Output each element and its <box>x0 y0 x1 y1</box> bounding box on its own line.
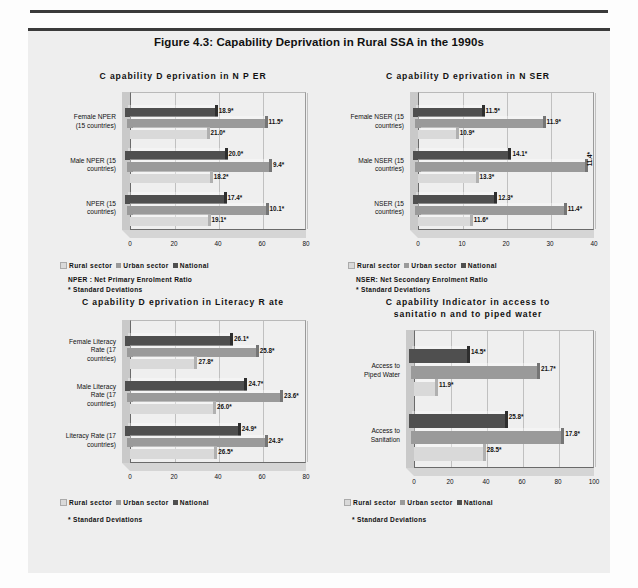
bar-label-sanitation-1-national: 25.8* <box>509 413 524 420</box>
x-tick-label: 40 <box>482 478 489 485</box>
legend-label-rural: Rural sector <box>353 499 396 506</box>
chart-title-nper: C apability D eprivation in N P ER <box>38 70 328 82</box>
chart-legend-sanitation: Rural sectorUrban sectorNational <box>344 499 493 506</box>
bar-literacy-2-rural <box>130 449 215 458</box>
y-category-label-nper-1: Male NPER (15 countries) <box>38 157 116 174</box>
legend-item-national: National <box>461 262 497 269</box>
x-tick-label: 20 <box>502 240 509 247</box>
bar-label-nper-0-rural: 21.0* <box>211 129 226 136</box>
chart-panel-literacy: C apability D eprivation in Literacy R a… <box>38 296 328 526</box>
legend-item-rural: Rural sector <box>348 262 400 269</box>
chart-note-sanitation: * Standard Deviations <box>352 515 426 525</box>
chart-legend-nser: Rural sectorUrban sectorNational <box>348 262 497 269</box>
chart-title-literacy: C apability D eprivation in Literacy R a… <box>38 296 328 308</box>
x-tick-label: 80 <box>302 240 309 247</box>
bar-label-nser-2-rural: 11.6* <box>474 216 488 223</box>
x-tick-label: 60 <box>518 478 525 485</box>
bar-label-literacy-2-rural: 26.5* <box>218 448 233 455</box>
gridline <box>559 331 560 467</box>
x-tick-label: 80 <box>554 478 561 485</box>
x-tick-label: 20 <box>446 478 453 485</box>
y-category-label-literacy-1: Male Literacy Rate (17 countries) <box>38 383 116 409</box>
legend-label-national: National <box>180 499 209 506</box>
gridline <box>523 331 524 467</box>
y-category-label-nser-2: NSER (15 countries) <box>326 200 404 217</box>
bar-label-nser-2-urban: 11.4* <box>568 205 582 212</box>
legend-item-rural: Rural sector <box>60 262 112 269</box>
figure-container: Figure 4.3: Capability Deprivation in Ru… <box>28 28 610 573</box>
y-category-label-sanitation-0: Access to Piped Water <box>326 362 400 379</box>
bar-label-literacy-2-urban: 24.3* <box>269 437 284 444</box>
bar-sanitation-1-urban <box>411 431 561 445</box>
figure-title-rule <box>28 28 610 31</box>
bar-label-sanitation-1-rural: 28.5* <box>487 446 502 453</box>
x-tick-label: 60 <box>258 240 265 247</box>
plot-floor <box>122 463 306 471</box>
bar-nser-2-rural <box>418 217 470 226</box>
y-category-label-nser-1: Male NSER (15 countries) <box>326 157 404 174</box>
y-category-label-nper-0: Female NPER (15 countries) <box>38 113 116 130</box>
bar-label-nser-1-national: 14.1* <box>512 150 527 157</box>
bar-label-literacy-1-national: 24.7* <box>248 380 263 387</box>
chart-panel-nper: C apability D eprivation in N P ER020406… <box>38 70 328 285</box>
bar-label-sanitation-0-national: 14.5* <box>471 348 486 355</box>
legend-label-national: National <box>464 499 493 506</box>
legend-swatch-national <box>173 500 178 505</box>
bar-label-literacy-2-national: 24.9* <box>242 425 257 432</box>
bar-label-nper-1-national: 20.0* <box>229 150 244 157</box>
legend-swatch-national <box>461 263 466 268</box>
x-tick-label: 40 <box>214 240 221 247</box>
legend-item-urban: Urban sector <box>116 262 168 269</box>
bar-label-nser-0-urban: 11.9* <box>547 118 561 125</box>
bar-label-literacy-0-rural: 27.8* <box>198 358 213 365</box>
x-tick-label: 40 <box>214 473 221 480</box>
legend-label-urban: Urban sector <box>411 262 456 269</box>
bar-label-nper-2-national: 17.4* <box>228 194 243 201</box>
bar-label-nper-1-urban: 9.4* <box>273 161 284 168</box>
bar-label-nser-0-national: 11.5* <box>486 107 500 114</box>
legend-item-urban: Urban sector <box>400 499 452 506</box>
legend-swatch-rural <box>60 262 67 269</box>
legend-item-urban: Urban sector <box>116 499 168 506</box>
x-tick-label: 0 <box>416 240 420 247</box>
bar-label-nper-2-rural: 19.1* <box>212 216 227 223</box>
bar-literacy-0-rural <box>130 359 195 368</box>
legend-swatch-rural <box>60 499 67 506</box>
y-category-label-nper-2: NPER (15 countries) <box>38 200 116 217</box>
bar-label-literacy-1-urban: 23.6* <box>284 392 299 399</box>
bar-label-sanitation-1-urban: 17.8* <box>565 430 580 437</box>
x-tick-label: 40 <box>590 240 597 247</box>
legend-swatch-urban <box>116 263 121 268</box>
bar-label-literacy-0-urban: 25.8* <box>260 347 275 354</box>
chart-title-nser: C apability D eprivation in N SER <box>326 70 610 82</box>
legend-swatch-urban <box>404 263 409 268</box>
legend-swatch-national <box>457 500 462 505</box>
legend-label-national: National <box>180 262 209 269</box>
chart-title-sanitation: C apability Indicator in access tosanita… <box>326 296 610 320</box>
legend-item-rural: Rural sector <box>60 499 112 506</box>
bar-sanitation-0-urban <box>411 366 537 380</box>
chart-legend-nper: Rural sectorUrban sectorNational <box>60 262 209 269</box>
legend-label-rural: Rural sector <box>69 499 112 506</box>
x-tick-label: 10 <box>458 240 465 247</box>
legend-item-national: National <box>457 499 493 506</box>
figure-title: Figure 4.3: Capability Deprivation in Ru… <box>28 36 610 48</box>
legend-item-national: National <box>173 499 209 506</box>
bar-label-nper-2-urban: 10.1* <box>270 205 285 212</box>
legend-swatch-national <box>173 263 178 268</box>
legend-item-rural: Rural sector <box>344 499 396 506</box>
chart-panel-nser: C apability D eprivation in N SER0102030… <box>326 70 610 285</box>
y-category-label-nser-0: Female NSER (15 countries) <box>326 113 404 130</box>
chart-note-nser: NSER: Net Secondary Enrolment Ratio * St… <box>356 275 488 294</box>
legend-swatch-rural <box>344 499 351 506</box>
bar-label-literacy-1-rural: 26.0* <box>217 403 232 410</box>
x-tick-label: 100 <box>589 478 600 485</box>
bar-nper-2-rural <box>130 217 208 226</box>
bar-nper-0-rural <box>130 130 207 139</box>
legend-label-urban: Urban sector <box>407 499 452 506</box>
y-category-label-literacy-0: Female Literacy Rate (17 countries) <box>38 338 116 364</box>
bar-sanitation-1-national <box>409 414 505 428</box>
bar-label-nper-0-urban: 11.5* <box>269 118 283 125</box>
chart-legend-literacy: Rural sectorUrban sectorNational <box>60 499 209 506</box>
gridline <box>307 321 308 462</box>
